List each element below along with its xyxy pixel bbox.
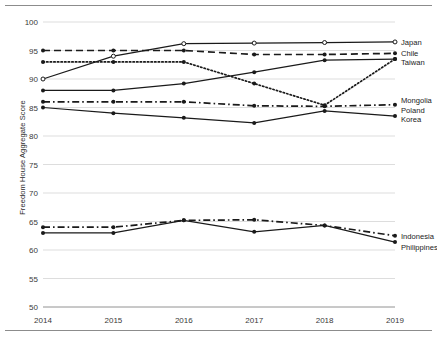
data-point <box>111 88 115 92</box>
data-point <box>182 49 186 53</box>
x-axis-tick-label: 2016 <box>175 316 193 325</box>
legend-label-mongolia: Mongolia <box>401 96 432 105</box>
series-mongolia <box>41 100 397 109</box>
data-point <box>111 49 115 53</box>
legend-label-korea: Korea <box>401 114 421 123</box>
y-axis-tick-label: 60 <box>29 246 38 255</box>
series-line <box>43 102 395 107</box>
data-point <box>393 103 397 107</box>
x-axis-tick-label: 2015 <box>104 316 122 325</box>
data-point <box>111 60 115 64</box>
data-point <box>393 240 397 244</box>
line-chart-svg <box>43 22 395 307</box>
x-axis-tick-label: 2018 <box>316 316 334 325</box>
data-point <box>323 104 327 108</box>
data-point <box>252 230 256 234</box>
data-point <box>182 218 186 222</box>
data-point <box>323 41 327 45</box>
data-point <box>41 100 45 104</box>
data-point <box>393 234 397 238</box>
series-taiwan <box>41 57 397 107</box>
y-axis-tick-label: 55 <box>29 274 38 283</box>
data-point <box>323 223 327 227</box>
x-axis-tick-label: 2019 <box>386 316 404 325</box>
data-point <box>41 88 45 92</box>
data-point <box>182 60 186 64</box>
data-point <box>323 52 327 56</box>
y-axis-tick-label: 75 <box>29 160 38 169</box>
data-point <box>111 231 115 235</box>
data-point <box>393 40 397 44</box>
data-point <box>252 70 256 74</box>
y-axis-tick-label: 85 <box>29 103 38 112</box>
legend-label-philippines: Philippines <box>401 242 437 251</box>
series-korea <box>41 106 397 125</box>
data-point <box>182 42 186 46</box>
data-point <box>252 121 256 125</box>
data-point <box>41 60 45 64</box>
legend-label-indonesia: Indonesia <box>401 231 434 240</box>
series-line <box>43 59 395 90</box>
data-point <box>111 100 115 104</box>
data-point <box>252 41 256 45</box>
series-chile <box>41 49 397 57</box>
data-point <box>41 77 45 81</box>
y-axis-tick-label: 70 <box>29 189 38 198</box>
x-axis-tick-label: 2014 <box>34 316 52 325</box>
data-point <box>111 111 115 115</box>
data-point <box>393 114 397 118</box>
data-point <box>41 225 45 229</box>
data-point <box>111 54 115 58</box>
bottom-divider <box>5 330 432 331</box>
data-point <box>41 231 45 235</box>
data-point <box>323 109 327 113</box>
x-axis-tick-label: 2017 <box>245 316 263 325</box>
legend-label-japan: Japan <box>401 37 422 46</box>
data-point <box>182 100 186 104</box>
data-point <box>252 218 256 222</box>
series-line <box>43 51 395 55</box>
data-point <box>393 57 397 61</box>
chart-figure: Freedom House Aggregate Score 5055606570… <box>0 0 437 338</box>
legend-label-taiwan: Taiwan <box>401 57 425 66</box>
series-indonesia <box>41 218 397 238</box>
top-divider <box>5 5 432 6</box>
data-point <box>252 104 256 108</box>
y-axis-tick-label: 95 <box>29 46 38 55</box>
series-line <box>43 108 395 123</box>
legend-label-poland: Poland <box>401 105 425 114</box>
y-axis-title: Freedom House Aggregate Score <box>18 63 27 253</box>
data-point <box>182 82 186 86</box>
plot-area: 5055606570758085909510020142015201620172… <box>43 22 395 307</box>
y-axis-tick-label: 100 <box>25 18 38 27</box>
y-axis-tick-label: 80 <box>29 132 38 141</box>
y-axis-tick-label: 50 <box>29 303 38 312</box>
series-philippines <box>41 218 397 244</box>
series-line <box>43 220 395 242</box>
data-point <box>252 82 256 86</box>
data-point <box>252 52 256 56</box>
series-line <box>43 59 395 105</box>
data-point <box>182 116 186 120</box>
data-point <box>41 106 45 110</box>
data-point <box>41 49 45 53</box>
y-axis-tick-label: 65 <box>29 217 38 226</box>
data-point <box>323 58 327 62</box>
y-axis-tick-label: 90 <box>29 75 38 84</box>
data-point <box>111 225 115 229</box>
data-point <box>393 51 397 55</box>
